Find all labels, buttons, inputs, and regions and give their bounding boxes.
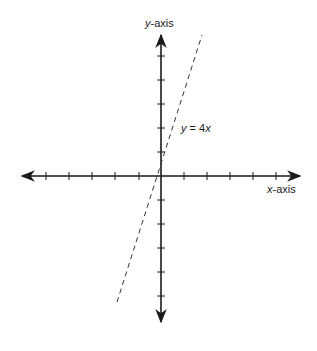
y-axis-label: y-axis: [145, 18, 174, 29]
line-equation-label: y = 4x: [181, 123, 211, 134]
x-axis-label: x-axis: [267, 184, 296, 195]
line-y-equals-4x: [117, 35, 202, 302]
coordinate-plane: [0, 0, 317, 351]
